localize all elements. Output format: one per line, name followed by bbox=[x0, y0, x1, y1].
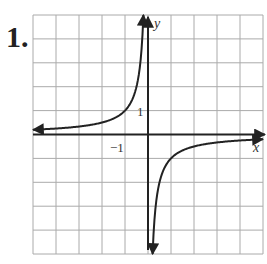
y-axis-label: y bbox=[152, 16, 161, 31]
curve-right-branch bbox=[153, 139, 263, 254]
graph: x y −1 1 bbox=[0, 0, 267, 264]
axes bbox=[33, 17, 265, 250]
x-axis-label: x bbox=[252, 140, 260, 155]
y-tick-label: 1 bbox=[137, 104, 144, 119]
curve-left-branch bbox=[33, 15, 143, 130]
x-tick-label: −1 bbox=[110, 140, 124, 155]
